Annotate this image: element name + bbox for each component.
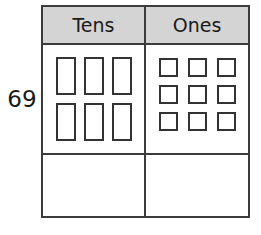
table-blocks-row bbox=[43, 45, 248, 155]
answer-cell-tens[interactable] bbox=[43, 155, 146, 216]
place-value-worksheet: 69 Tens Ones bbox=[0, 0, 261, 235]
blocks-cell-tens bbox=[43, 45, 146, 153]
number-label: 69 bbox=[6, 85, 38, 113]
tens-rod-group bbox=[43, 45, 144, 153]
tens-rod bbox=[112, 57, 132, 95]
table-answer-row bbox=[43, 155, 248, 216]
blocks-cell-ones bbox=[146, 45, 248, 153]
ones-unit bbox=[217, 85, 236, 104]
ones-unit bbox=[159, 112, 178, 131]
tens-rod bbox=[84, 57, 104, 95]
ones-unit bbox=[217, 58, 236, 77]
ones-unit bbox=[188, 58, 207, 77]
answer-cell-ones[interactable] bbox=[146, 155, 248, 216]
place-value-table: Tens Ones bbox=[41, 5, 250, 218]
tens-rod bbox=[56, 103, 76, 141]
header-cell-ones: Ones bbox=[146, 7, 248, 43]
header-label-ones: Ones bbox=[173, 14, 222, 36]
ones-unit bbox=[159, 58, 178, 77]
tens-rod bbox=[56, 57, 76, 95]
ones-unit bbox=[159, 85, 178, 104]
header-cell-tens: Tens bbox=[43, 7, 146, 43]
tens-rod bbox=[84, 103, 104, 141]
header-label-tens: Tens bbox=[72, 14, 114, 36]
table-header-row: Tens Ones bbox=[43, 7, 248, 45]
ones-unit bbox=[217, 112, 236, 131]
ones-unit-group bbox=[146, 45, 248, 153]
ones-unit bbox=[188, 85, 207, 104]
tens-rod bbox=[112, 103, 132, 141]
ones-unit bbox=[188, 112, 207, 131]
